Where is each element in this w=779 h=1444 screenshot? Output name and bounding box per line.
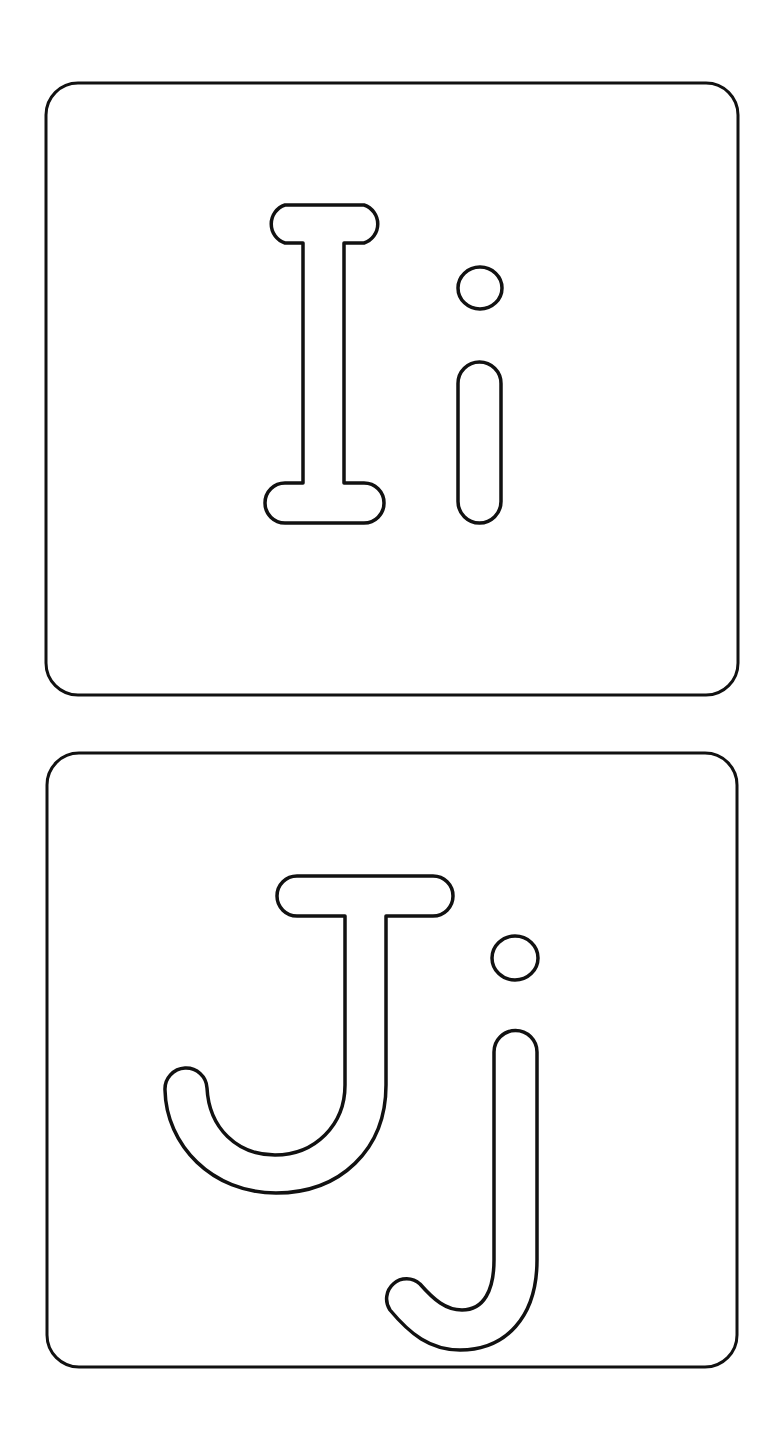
worksheet-canvas: [0, 0, 779, 1444]
card-frame: [47, 753, 737, 1367]
letter-card-j: [47, 753, 737, 1367]
card-frame: [46, 83, 738, 695]
lowercase-j-dot: [492, 936, 538, 980]
lowercase-i-dot: [458, 267, 502, 309]
lowercase-i-stem: [458, 362, 501, 523]
letter-card-i: [46, 83, 738, 695]
